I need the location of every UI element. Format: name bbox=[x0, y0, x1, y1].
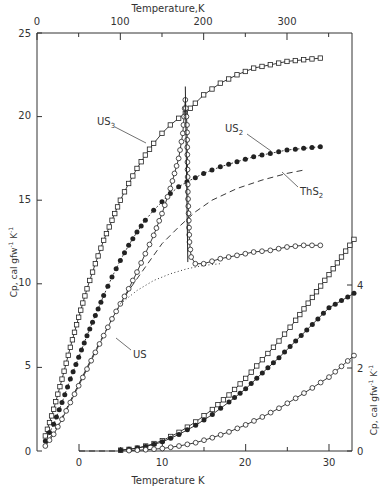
label-us2: US2 bbox=[225, 123, 243, 137]
label-us3: US3 bbox=[97, 116, 115, 130]
right-tick-2: 2 bbox=[357, 363, 363, 374]
label-us: US bbox=[133, 349, 147, 360]
top-tick-200: 200 bbox=[193, 16, 212, 27]
top-axis-title: Temperature,K bbox=[130, 3, 205, 14]
leader-us3 bbox=[115, 127, 146, 143]
left-tick-5: 5 bbox=[25, 360, 31, 371]
bottom-tick-20: 20 bbox=[239, 457, 252, 468]
leader-us2 bbox=[247, 134, 271, 151]
top-tick-100: 100 bbox=[110, 16, 129, 27]
bottom-axis-title: Temperature K bbox=[130, 475, 205, 486]
series-us3 bbox=[118, 237, 356, 452]
low-temperature-series bbox=[79, 237, 356, 453]
svg-text:Cp, cal gfw-1 K-1: Cp, cal gfw-1 K-1 bbox=[7, 227, 19, 298]
left-axis-tick-labels: 25 20 15 10 5 0 bbox=[18, 28, 31, 457]
label-ths2: ThS2 bbox=[299, 186, 323, 200]
left-tick-15: 15 bbox=[18, 194, 31, 205]
series-us-lattice-estimate- bbox=[120, 264, 220, 304]
right-axis-title: Cp, cal gfw-1 K-1 bbox=[367, 365, 379, 436]
series-ths2 bbox=[45, 170, 303, 446]
svg-text:Cp, cal gfw-1 K-1: Cp, cal gfw-1 K-1 bbox=[367, 365, 379, 436]
left-tick-10: 10 bbox=[18, 277, 31, 288]
series-us bbox=[127, 353, 357, 453]
heat-capacity-chart: 0 100 200 300 25 20 15 10 5 0 0 10 20 30… bbox=[0, 0, 388, 489]
right-axis-ticks bbox=[347, 285, 352, 451]
left-tick-25: 25 bbox=[18, 28, 31, 39]
leader-ths2 bbox=[282, 172, 298, 187]
leader-us bbox=[116, 338, 131, 350]
top-axis-tick-labels: 0 100 200 300 bbox=[34, 16, 297, 27]
top-tick-300: 300 bbox=[277, 16, 296, 27]
left-axis-title: Cp, cal gfw-1 K-1 bbox=[7, 227, 19, 298]
left-tick-20: 20 bbox=[18, 110, 31, 121]
left-axis-ticks bbox=[37, 33, 42, 451]
series-us bbox=[43, 97, 323, 448]
right-axis-tick-labels: 4 2 0 bbox=[357, 280, 363, 457]
high-temperature-series bbox=[43, 56, 323, 449]
top-axis-ticks bbox=[37, 33, 329, 40]
plot-frame bbox=[37, 33, 352, 451]
bottom-axis-ticks bbox=[79, 444, 329, 451]
right-tick-0: 0 bbox=[357, 446, 363, 457]
top-tick-0: 0 bbox=[34, 16, 40, 27]
right-tick-4: 4 bbox=[357, 280, 363, 291]
bottom-tick-10: 10 bbox=[156, 457, 169, 468]
bottom-tick-0: 0 bbox=[76, 457, 82, 468]
bottom-axis-tick-labels: 0 10 20 30 bbox=[76, 457, 336, 468]
left-tick-0: 0 bbox=[25, 446, 31, 457]
bottom-tick-30: 30 bbox=[323, 457, 336, 468]
